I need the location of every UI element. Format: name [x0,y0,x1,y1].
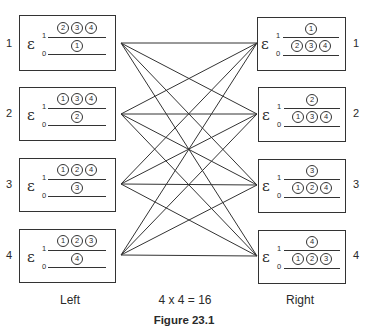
circled-number: 4 [85,164,97,176]
index-top: 1 [42,245,46,253]
epsilon-symbol: ε [27,107,35,123]
circled-number: 1 [292,253,304,265]
bottom-set: 3 [47,182,107,194]
right-box-3: ε 1 0 3 1 2 4 [258,159,346,213]
epsilon-symbol: ε [262,107,270,123]
lower-rule [48,196,106,197]
circled-number: 2 [71,235,83,247]
epsilon-symbol: ε [27,249,35,265]
circled-number: 1 [57,235,69,247]
left-box-2: ε 1 0 1 3 4 2 [19,87,116,141]
circled-number: 1 [305,23,317,35]
top-set: 4 [283,236,341,248]
bottom-set: 2 3 4 [282,40,340,52]
epsilon-symbol: ε [27,178,35,194]
epsilon-symbol: ε [262,178,270,194]
circled-number: 3 [71,182,83,194]
top-set: 2 [283,94,341,106]
index-bottom: 0 [42,50,46,58]
bottom-set: 2 [47,111,107,123]
top-set: 1 3 4 [47,93,107,105]
circled-number: 3 [305,40,317,52]
right-caption: Right [270,293,330,307]
epsilon-symbol: ε [261,36,269,52]
right-box-2: ε 1 0 2 1 3 4 [258,87,346,142]
index-bottom: 0 [277,192,281,200]
figure-title: Figure 23.1 [134,313,234,327]
circled-number: 2 [71,164,83,176]
index-top: 1 [277,103,281,111]
bottom-set: 1 2 3 [283,253,341,265]
index-top: 1 [42,103,46,111]
circled-number: 2 [306,94,318,106]
index-bottom: 0 [277,121,281,129]
circled-number: 3 [71,93,83,105]
right-box-1: ε 1 0 1 2 3 4 [257,17,346,71]
top-set: 2 3 4 [47,22,107,34]
circled-number: 3 [85,235,97,247]
bottom-set: 1 2 4 [283,182,341,194]
left-row-label: 4 [6,249,12,261]
circled-number: 2 [291,40,303,52]
circled-number: 1 [292,182,304,194]
right-row-label: 2 [353,107,359,119]
left-caption: Left [40,293,100,307]
circled-number: 1 [292,111,304,123]
circled-number: 3 [320,253,332,265]
circled-number: 2 [57,22,69,34]
circled-number: 4 [319,40,331,52]
circled-number: 4 [306,236,318,248]
upper-rule [48,179,106,180]
index-bottom: 0 [42,121,46,129]
index-top: 1 [277,174,281,182]
left-box-4: ε 1 0 1 2 3 4 [19,229,116,283]
upper-rule [48,108,106,109]
circled-number: 4 [320,111,332,123]
bottom-set: 4 [47,253,107,265]
index-top: 1 [276,32,280,40]
index-bottom: 0 [42,192,46,200]
index-top: 1 [42,32,46,40]
circled-number: 4 [85,93,97,105]
circled-number: 4 [85,22,97,34]
lower-rule [284,126,340,127]
upper-rule [284,250,340,251]
upper-rule [48,250,106,251]
top-set: 3 [283,165,341,177]
left-row-label: 1 [6,37,12,49]
upper-rule [283,37,339,38]
top-set: 1 [282,23,340,35]
epsilon-symbol: ε [262,249,270,265]
lower-rule [48,54,106,55]
circled-number: 1 [71,40,83,52]
index-top: 1 [277,245,281,253]
left-box-3: ε 1 0 1 2 4 3 [19,158,116,212]
right-row-label: 3 [353,178,359,190]
left-row-label: 3 [6,178,12,190]
top-set: 1 2 4 [47,164,107,176]
lower-rule [284,268,340,269]
index-bottom: 0 [276,50,280,58]
circled-number: 3 [71,22,83,34]
lower-rule [48,125,106,126]
top-set: 1 2 3 [47,235,107,247]
index-top: 1 [42,174,46,182]
bottom-set: 1 3 4 [283,111,341,123]
figure-23-1: 1 ε 1 0 2 3 4 1 2 ε 1 0 1 3 4 2 3 ε [0,0,369,330]
circled-number: 2 [71,111,83,123]
circled-number: 3 [306,111,318,123]
circled-number: 4 [320,182,332,194]
index-bottom: 0 [42,263,46,271]
circled-number: 4 [71,253,83,265]
lower-rule [283,55,339,56]
equation-caption: 4 x 4 = 16 [140,293,230,307]
right-row-label: 1 [353,37,359,49]
bottom-set: 1 [47,40,107,52]
upper-rule [48,37,106,38]
upper-rule [284,108,340,109]
upper-rule [284,179,340,180]
right-row-label: 4 [353,249,359,261]
circled-number: 1 [57,93,69,105]
left-row-label: 2 [6,107,12,119]
lower-rule [48,267,106,268]
